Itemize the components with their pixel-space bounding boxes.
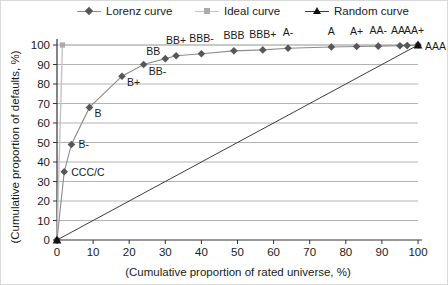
cap-curve-figure: Lorenz curve Ideal curve Random curve 01… [0, 0, 448, 285]
svg-text:B-: B- [78, 138, 89, 150]
svg-text:AA: AA [391, 24, 405, 36]
svg-text:20: 20 [37, 195, 50, 207]
svg-text:60: 60 [267, 246, 280, 258]
svg-text:B: B [94, 107, 101, 119]
svg-text:60: 60 [37, 117, 50, 129]
svg-text:90: 90 [37, 59, 50, 71]
svg-text:BB+: BB+ [166, 34, 186, 46]
y-axis-title: (Cumulative proportion of defaults, %) [9, 50, 21, 243]
svg-text:70: 70 [303, 246, 316, 258]
svg-text:0: 0 [44, 234, 50, 246]
svg-text:A-: A- [283, 26, 294, 38]
x-axis-title: (Cumulative proportion of rated universe… [125, 266, 351, 278]
svg-text:40: 40 [37, 156, 50, 168]
svg-text:50: 50 [231, 246, 244, 258]
svg-text:CCC/C: CCC/C [71, 166, 105, 178]
svg-text:BB: BB [146, 45, 160, 57]
svg-text:BBB+: BBB+ [249, 28, 276, 40]
svg-text:10: 10 [87, 246, 100, 258]
svg-text:100: 100 [31, 39, 50, 51]
svg-text:B+: B+ [127, 76, 140, 88]
svg-text:80: 80 [339, 246, 352, 258]
svg-text:AA-: AA- [370, 24, 388, 36]
svg-text:40: 40 [195, 246, 208, 258]
svg-text:50: 50 [37, 137, 50, 149]
cap-chart-plot: 0102030405060708090100010203040506070809… [1, 1, 448, 285]
svg-text:AAA: AAA [425, 40, 446, 52]
svg-text:30: 30 [159, 246, 172, 258]
svg-text:BB-: BB- [149, 65, 167, 77]
svg-text:20: 20 [123, 246, 136, 258]
svg-text:30: 30 [37, 176, 50, 188]
svg-text:10: 10 [37, 215, 50, 227]
svg-text:AA+: AA+ [404, 24, 424, 36]
svg-text:0: 0 [54, 246, 60, 258]
svg-text:100: 100 [408, 246, 427, 258]
svg-text:BBB-: BBB- [189, 32, 214, 44]
svg-text:70: 70 [37, 98, 50, 110]
svg-text:A: A [328, 25, 335, 37]
svg-text:80: 80 [37, 78, 50, 90]
svg-text:A+: A+ [350, 25, 363, 37]
svg-text:BBB: BBB [223, 29, 244, 41]
svg-text:90: 90 [376, 246, 389, 258]
